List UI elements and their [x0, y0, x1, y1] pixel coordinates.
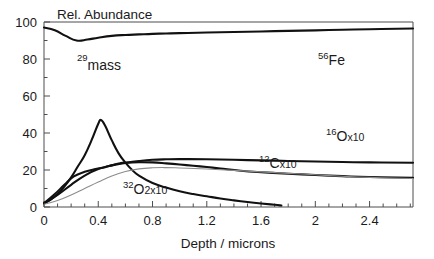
x-tick-label: 2.4	[361, 213, 379, 228]
plot-frame	[44, 22, 413, 207]
x-tick-label: 0.4	[89, 213, 107, 228]
x-tick-label: 0	[40, 213, 47, 228]
x-tick-label: 2	[312, 213, 319, 228]
x-tick-label: 1.6	[252, 213, 270, 228]
x-axis-title: Depth / microns	[181, 236, 276, 251]
curve-12c-x10	[44, 162, 413, 203]
y-tick-label: 60	[23, 89, 37, 104]
series-label-o32: 32O2x10	[123, 179, 167, 197]
chart-canvas: 020406080100 00.40.81.21.622.4 Rel. Abun…	[0, 0, 434, 259]
data-curves	[44, 28, 413, 206]
chart-title: Rel. Abundance	[57, 7, 152, 22]
x-axis-tick-labels: 00.40.81.21.622.4	[40, 213, 378, 228]
x-tick-label: 0.8	[143, 213, 161, 228]
x-tick-label: 1.2	[198, 213, 216, 228]
y-axis-tick-labels: 020406080100	[15, 15, 37, 215]
curve-56fe	[44, 28, 413, 41]
x-axis-ticks	[44, 201, 410, 207]
y-axis-ticks	[44, 22, 50, 207]
series-label-o16: 16Ox10	[326, 126, 365, 144]
y-tick-label: 0	[30, 200, 37, 215]
y-tick-label: 40	[23, 126, 37, 141]
series-label-fe56: 56Fe	[318, 50, 345, 68]
y-tick-label: 20	[23, 163, 37, 178]
series-label-mass29: 29mass	[77, 52, 121, 73]
sims-depth-profile-figure: 020406080100 00.40.81.21.622.4 Rel. Abun…	[0, 0, 434, 259]
series-label-c12: 12Cx10	[259, 153, 297, 171]
y-tick-label: 100	[15, 15, 37, 30]
y-tick-label: 80	[23, 52, 37, 67]
